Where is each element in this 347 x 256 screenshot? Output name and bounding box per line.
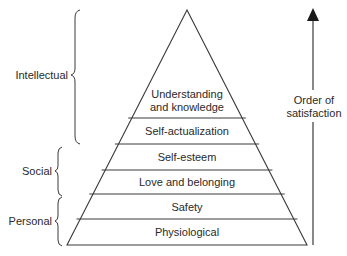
brace-social-icon — [55, 147, 62, 196]
brace-intellectual-icon — [71, 10, 80, 144]
pyramid-diagram: Understanding and knowledge Self-actuali… — [0, 0, 347, 256]
brace-personal-icon — [55, 197, 62, 246]
level-label-love-belonging: Love and belonging — [139, 176, 235, 188]
group-label-intellectual: Intellectual — [15, 69, 68, 81]
level-label-self-esteem: Self-esteem — [158, 151, 217, 163]
level-label-self-actualization: Self-actualization — [145, 125, 229, 137]
level-label-understanding-2: and knowledge — [150, 101, 224, 113]
group-label-social: Social — [22, 165, 52, 177]
group-label-personal: Personal — [9, 215, 52, 227]
level-label-understanding-1: Understanding — [151, 88, 223, 100]
level-label-physiological: Physiological — [155, 226, 219, 238]
level-label-safety: Safety — [171, 201, 203, 213]
arrow-label-line2: satisfaction — [286, 107, 341, 119]
arrow-up-icon — [307, 8, 319, 21]
arrow-label-line1: Order of — [294, 94, 335, 106]
diagram-svg: Understanding and knowledge Self-actuali… — [0, 0, 347, 256]
